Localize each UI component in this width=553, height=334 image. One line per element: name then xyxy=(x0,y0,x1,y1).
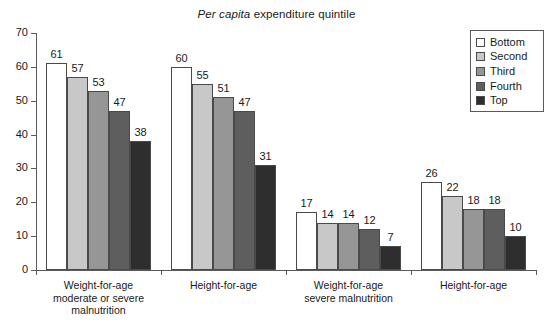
bar xyxy=(67,77,88,270)
bar xyxy=(317,223,338,270)
bar-chart: Per capita expenditure quintile 01020304… xyxy=(0,0,553,334)
bar xyxy=(463,209,484,270)
bar xyxy=(338,223,359,270)
bars-layer xyxy=(36,33,536,270)
bar-value-label: 51 xyxy=(207,83,240,94)
bar-value-label: 31 xyxy=(249,151,282,162)
bar-value-label: 53 xyxy=(82,77,115,88)
bar xyxy=(421,182,442,270)
x-axis-tick xyxy=(411,270,412,275)
legend-item-label: Second xyxy=(490,51,527,62)
bar xyxy=(234,111,255,270)
legend-swatch-icon xyxy=(476,96,485,105)
y-axis-tick-label: 40 xyxy=(0,129,28,140)
bar-value-label: 22 xyxy=(436,182,469,193)
legend-swatch-icon xyxy=(476,82,485,91)
bar xyxy=(192,84,213,270)
bar xyxy=(255,165,276,270)
legend-item[interactable]: Third xyxy=(476,64,543,79)
bar-value-label: 47 xyxy=(228,97,261,108)
x-axis-tick xyxy=(161,270,162,275)
bar-value-label: 7 xyxy=(374,232,407,243)
bar xyxy=(505,236,526,270)
y-axis-tick-label: 30 xyxy=(0,162,28,173)
legend-item-label: Top xyxy=(490,95,508,106)
chart-title-italic: Per capita xyxy=(198,8,251,20)
bar xyxy=(88,91,109,270)
bar-value-label: 12 xyxy=(353,215,386,226)
legend-item[interactable]: Top xyxy=(476,93,543,108)
legend-swatch-icon xyxy=(476,67,485,76)
bar-value-label: 10 xyxy=(499,222,532,233)
bar-value-label: 57 xyxy=(61,63,94,74)
y-axis-tick-label: 10 xyxy=(0,230,28,241)
x-axis-tick xyxy=(286,270,287,275)
bar xyxy=(484,209,505,270)
bar-value-label: 18 xyxy=(478,195,511,206)
bar-value-label: 61 xyxy=(40,49,73,60)
legend-item-label: Bottom xyxy=(490,37,525,48)
bar xyxy=(46,63,67,270)
legend-item[interactable]: Bottom xyxy=(476,35,543,50)
legend-item-label: Fourth xyxy=(490,81,522,92)
chart-title: Per capita expenditure quintile xyxy=(0,8,553,20)
legend: BottomSecondThirdFourthTop xyxy=(470,30,544,112)
y-axis-tick-label: 60 xyxy=(0,61,28,72)
bar xyxy=(171,67,192,270)
bar xyxy=(213,97,234,270)
y-axis-tick-label: 70 xyxy=(0,27,28,38)
bar-value-label: 26 xyxy=(415,168,448,179)
bar-value-label: 47 xyxy=(103,97,136,108)
legend-item[interactable]: Fourth xyxy=(476,79,543,94)
bar xyxy=(442,196,463,270)
group-label: Height-for-age xyxy=(399,279,548,292)
legend-swatch-icon xyxy=(476,38,485,47)
bar-value-label: 60 xyxy=(165,53,198,64)
bar-value-label: 55 xyxy=(186,70,219,81)
y-axis-tick-label: 0 xyxy=(0,264,28,275)
legend-swatch-icon xyxy=(476,52,485,61)
bar xyxy=(380,246,401,270)
bar-value-label: 38 xyxy=(124,127,157,138)
legend-item-label: Third xyxy=(490,66,515,77)
legend-item[interactable]: Second xyxy=(476,50,543,65)
x-axis-tick xyxy=(36,270,37,275)
y-axis-tick-label: 20 xyxy=(0,196,28,207)
bar xyxy=(296,212,317,270)
y-axis-tick-label: 50 xyxy=(0,95,28,106)
chart-title-regular: expenditure quintile xyxy=(254,8,356,20)
bar xyxy=(130,141,151,270)
x-axis-tick xyxy=(536,270,537,275)
